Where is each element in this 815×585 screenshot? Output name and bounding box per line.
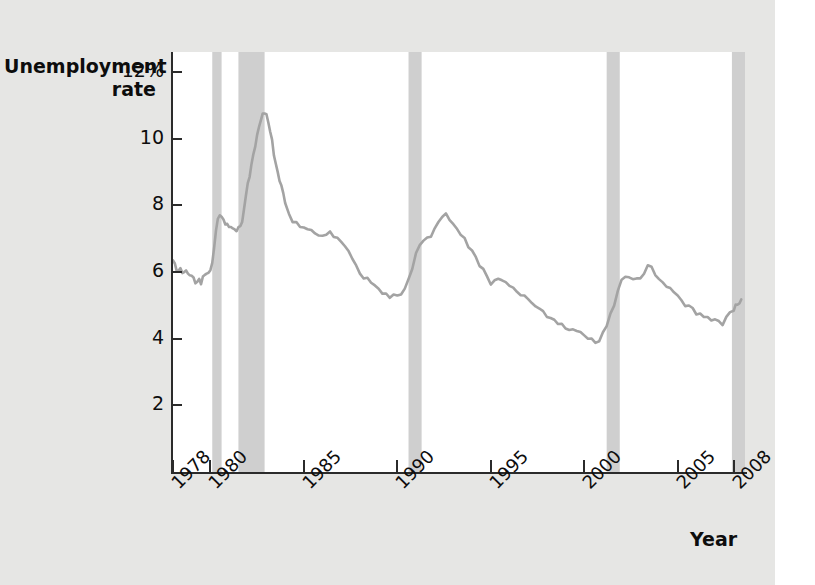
y-tick-label-wrap: 6 xyxy=(60,259,164,281)
y-tick-label: 8 xyxy=(60,192,164,214)
y-tick-mark xyxy=(173,271,182,273)
chart-svg xyxy=(173,52,745,472)
y-tick-label-wrap: 2 xyxy=(60,392,164,414)
y-tick-label: 4 xyxy=(60,326,164,348)
y-axis-title-line2: rate xyxy=(4,78,156,101)
figure-background: 12%108642 197819801985199019952000200520… xyxy=(0,0,775,585)
y-axis-line xyxy=(171,52,173,474)
y-tick-label-wrap: 8 xyxy=(60,192,164,214)
y-tick-mark xyxy=(173,204,182,206)
y-tick-mark xyxy=(173,71,182,73)
x-axis-title: Year xyxy=(690,528,737,550)
y-tick-mark xyxy=(173,338,182,340)
recession-band xyxy=(732,52,745,472)
plot-area xyxy=(173,52,745,472)
y-tick-label-wrap: 10 xyxy=(60,126,164,148)
y-axis-title-line1: Unemployment xyxy=(4,55,156,78)
y-tick-label: 10 xyxy=(60,126,164,148)
y-tick-label: 6 xyxy=(60,259,164,281)
recession-band xyxy=(238,52,264,472)
y-tick-label: 2 xyxy=(60,392,164,414)
y-tick-mark xyxy=(173,404,182,406)
y-tick-label-wrap: 4 xyxy=(60,326,164,348)
page-right-margin xyxy=(775,0,815,585)
recession-band xyxy=(607,52,620,472)
x-axis-line xyxy=(171,472,747,474)
y-tick-mark xyxy=(173,138,182,140)
y-axis-title: Unemployment rate xyxy=(4,55,156,101)
